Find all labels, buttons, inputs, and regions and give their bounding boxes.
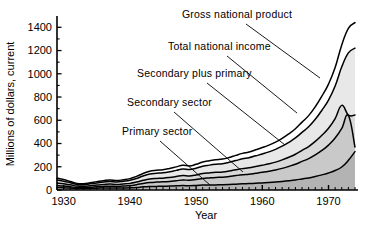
x-axis-title: Year xyxy=(195,209,218,221)
chart-container: 0200400600800100012001400193019401950196… xyxy=(0,0,373,235)
annotation-label: Secondary sector xyxy=(127,96,212,108)
x-tick-label: 1930 xyxy=(51,195,75,207)
y-tick-label: 1000 xyxy=(28,68,52,80)
annotation-label: Secondary plus primary xyxy=(137,67,252,79)
x-tick-label: 1960 xyxy=(250,195,274,207)
economic-timeseries-chart: 0200400600800100012001400193019401950196… xyxy=(0,0,373,235)
annotation-label: Primary sector xyxy=(122,125,193,137)
y-tick-label: 1200 xyxy=(28,44,52,56)
y-tick-label: 600 xyxy=(34,114,52,126)
x-tick-label: 1950 xyxy=(184,195,208,207)
y-tick-label: 200 xyxy=(34,161,52,173)
y-tick-label: 1400 xyxy=(28,21,52,33)
y-tick-label: 400 xyxy=(34,137,52,149)
x-tick-label: 1970 xyxy=(316,195,340,207)
annotation-leader-line xyxy=(207,83,285,145)
annotation-label: Gross national product xyxy=(182,8,292,20)
y-tick-label: 800 xyxy=(34,91,52,103)
annotation-leader-line xyxy=(227,56,297,113)
annotation-label: Total national income xyxy=(168,40,271,52)
y-axis-title: Millions of dollars, current xyxy=(4,42,16,167)
x-tick-label: 1940 xyxy=(118,195,142,207)
y-tick-label: 0 xyxy=(46,184,52,196)
